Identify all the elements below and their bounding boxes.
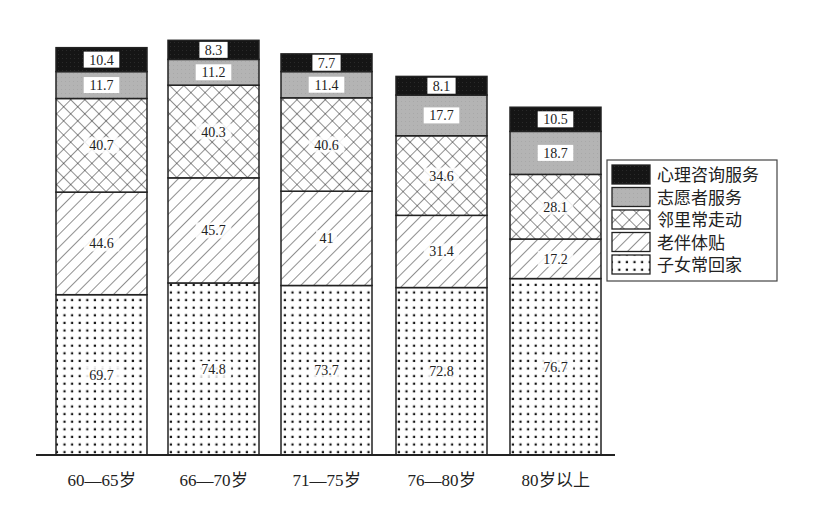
legend-swatch bbox=[612, 188, 650, 207]
data-label: 40.7 bbox=[89, 138, 114, 153]
figure-caption-clipped bbox=[150, 506, 710, 516]
data-label: 18.7 bbox=[543, 146, 568, 161]
legend-swatch bbox=[612, 165, 650, 184]
data-label: 74.8 bbox=[201, 362, 226, 377]
legend-swatch bbox=[612, 210, 650, 229]
data-label: 69.7 bbox=[89, 368, 114, 383]
legend: 心理咨询服务志愿者服务邻里常走动老伴体贴子女常回家 bbox=[607, 160, 777, 281]
data-label: 10.5 bbox=[543, 112, 568, 127]
data-label: 40.3 bbox=[201, 125, 226, 140]
data-label: 17.7 bbox=[429, 108, 454, 123]
x-tick-label: 60—65岁 bbox=[68, 471, 136, 490]
legend-swatch bbox=[612, 255, 650, 274]
data-label: 72.8 bbox=[429, 364, 454, 379]
data-label: 11.7 bbox=[90, 78, 114, 93]
x-tick-label: 71—75岁 bbox=[293, 471, 361, 490]
data-label: 10.4 bbox=[89, 53, 114, 68]
legend-label: 志愿者服务 bbox=[657, 188, 742, 208]
legend-label: 子女常回家 bbox=[657, 255, 742, 275]
data-label: 7.7 bbox=[318, 56, 336, 71]
bars-group: 69.744.640.711.710.474.845.740.311.28.37… bbox=[56, 40, 601, 455]
bar-4: 76.717.228.118.710.5 bbox=[510, 107, 601, 455]
data-label: 8.3 bbox=[205, 43, 223, 58]
data-label: 45.7 bbox=[201, 223, 226, 238]
data-label: 17.2 bbox=[543, 252, 568, 267]
data-label: 11.2 bbox=[202, 65, 226, 80]
bar-2: 73.74140.611.47.7 bbox=[281, 54, 372, 455]
data-label: 41 bbox=[320, 231, 334, 246]
bar-3: 72.831.434.617.78.1 bbox=[396, 76, 487, 455]
data-label: 34.6 bbox=[429, 169, 454, 184]
data-label: 44.6 bbox=[89, 236, 114, 251]
data-label: 40.6 bbox=[314, 138, 339, 153]
legend-swatch bbox=[612, 233, 650, 252]
legend-label: 邻里常走动 bbox=[657, 210, 742, 230]
data-label: 76.7 bbox=[543, 360, 568, 375]
legend-label: 老伴体贴 bbox=[657, 233, 725, 253]
bar-1: 74.845.740.311.28.3 bbox=[168, 40, 259, 455]
x-tick-label: 66—70岁 bbox=[180, 471, 248, 490]
x-tick-label: 80岁以上 bbox=[522, 471, 590, 490]
data-label: 31.4 bbox=[429, 244, 454, 259]
data-label: 73.7 bbox=[314, 363, 339, 378]
x-axis-tick-labels: 60—65岁66—70岁71—75岁76—80岁80岁以上 bbox=[68, 471, 590, 490]
x-tick-label: 76—80岁 bbox=[408, 471, 476, 490]
stacked-bar-chart: 69.744.640.711.710.474.845.740.311.28.37… bbox=[0, 0, 813, 516]
data-label: 28.1 bbox=[543, 200, 568, 215]
legend-label: 心理咨询服务 bbox=[657, 165, 759, 185]
bar-0: 69.744.640.711.710.4 bbox=[56, 48, 147, 455]
data-label: 11.4 bbox=[315, 78, 339, 93]
data-label: 8.1 bbox=[433, 79, 451, 94]
